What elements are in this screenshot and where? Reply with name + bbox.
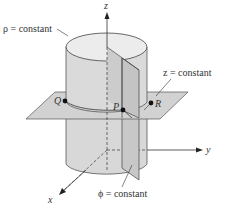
cylindrical-coordinates-diagram: ρ = constant z = constant ϕ = constant z… [0, 0, 230, 217]
point-P [121, 108, 126, 113]
point-R-label: R [154, 98, 161, 109]
rho-leader-line [57, 29, 68, 36]
z-axis-label: z [103, 0, 108, 11]
z-constant-label: z = constant [163, 67, 212, 78]
point-P-label: P [112, 101, 119, 112]
phi-constant-label: ϕ = constant [98, 188, 147, 199]
rho-constant-label: ρ = constant [3, 23, 52, 34]
z-axis-arrow-icon [105, 12, 110, 19]
point-Q-label: Q [54, 95, 62, 106]
point-R [149, 101, 154, 106]
cylinder-top-ellipse [66, 33, 147, 61]
y-axis-arrow-icon [196, 148, 203, 153]
y-axis-label: y [205, 144, 211, 155]
x-axis-label: x [47, 194, 53, 205]
point-Q [63, 99, 68, 104]
